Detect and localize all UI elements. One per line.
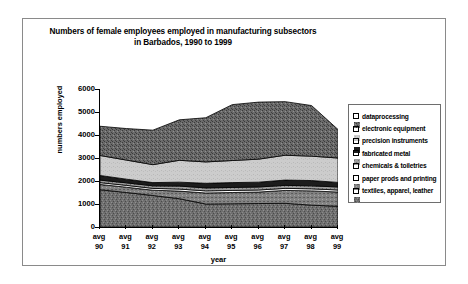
y-tick-label: 2000 — [55, 177, 95, 185]
y-tick-mark — [95, 89, 99, 90]
legend-label: textiles, apparel, leather — [362, 187, 433, 194]
plot-area — [99, 89, 338, 228]
legend-item[interactable]: electronic equipment — [353, 122, 437, 134]
y-tick-label: 4000 — [55, 131, 95, 139]
legend-item[interactable]: fabricated metal — [353, 147, 437, 159]
x-tick-mark — [125, 225, 126, 229]
y-tick-mark — [95, 158, 99, 159]
x-tick-label-line: 99 — [317, 242, 357, 252]
x-tick-mark — [337, 225, 338, 229]
legend-swatch-icon — [353, 163, 359, 169]
chart-legend: dataprocessingelectronic equipmentprecis… — [348, 104, 441, 203]
stacked-area-series — [100, 89, 338, 227]
legend-label: chemicals & toiletries — [362, 162, 427, 169]
x-tick-mark — [205, 225, 206, 229]
area-series — [100, 102, 338, 165]
x-tick-mark — [231, 225, 232, 229]
y-tick-mark — [95, 135, 99, 136]
legend-swatch-icon — [353, 138, 359, 144]
chart-figure: Numbers of female employees employed in … — [22, 18, 446, 266]
legend-swatch-icon — [353, 126, 359, 132]
x-tick-mark — [284, 225, 285, 229]
legend-swatch-icon — [353, 150, 359, 156]
y-tick-label: 6000 — [55, 85, 95, 93]
y-tick-mark — [95, 112, 99, 113]
legend-item[interactable]: dataprocessing — [353, 110, 437, 122]
x-tick-label-line: avg — [317, 232, 357, 242]
legend-label: electronic equipment — [362, 125, 425, 132]
legend-swatch-icon — [353, 188, 359, 194]
y-tick-label: 3000 — [55, 154, 95, 162]
x-tick-mark — [311, 225, 312, 229]
y-tick-label: 0 — [55, 223, 95, 231]
x-tick-mark — [152, 225, 153, 229]
y-axis-ticks: 6000500040003000200010000 — [51, 19, 95, 265]
y-tick-label: 5000 — [55, 108, 95, 116]
legend-item[interactable]: textiles, apparel, leather — [353, 184, 437, 196]
legend-label: fabricated metal — [362, 150, 410, 157]
legend-label: precision instruments — [362, 137, 428, 144]
legend-swatch-icon — [353, 113, 359, 119]
y-tick-mark — [95, 227, 99, 228]
x-tick-mark — [99, 225, 100, 229]
x-tick-mark — [178, 225, 179, 229]
legend-item[interactable]: precision instruments — [353, 135, 437, 147]
y-tick-mark — [95, 204, 99, 205]
legend-swatch-icon — [353, 175, 359, 181]
y-tick-mark — [95, 181, 99, 182]
legend-label: dataprocessing — [362, 113, 409, 120]
y-tick-label: 1000 — [55, 200, 95, 208]
x-tick-mark — [258, 225, 259, 229]
legend-label: paper prods and printing — [362, 175, 436, 182]
x-axis-label: year — [99, 255, 338, 264]
legend-item[interactable]: chemicals & toiletries — [353, 160, 437, 172]
legend-item[interactable]: paper prods and printing — [353, 172, 437, 184]
x-tick-label: avg99 — [317, 232, 357, 252]
